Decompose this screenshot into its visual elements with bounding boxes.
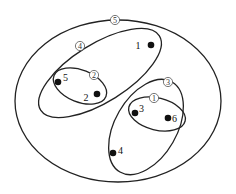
cluster-5-ellipse	[15, 20, 221, 182]
point-dot	[148, 42, 155, 49]
point-1: 1	[136, 40, 155, 51]
cluster-3-label: 3	[163, 77, 172, 86]
point-6: 6	[165, 113, 177, 124]
cluster-4-ellipse	[25, 11, 174, 134]
point-label: 4	[118, 145, 123, 156]
point-dot	[132, 110, 139, 117]
label-number: 4	[78, 42, 82, 51]
cluster-2-label: 2	[89, 70, 98, 79]
label-number: 5	[113, 16, 117, 25]
point-dot	[165, 115, 172, 122]
cluster-5-label: 5	[110, 15, 119, 24]
point-dot	[110, 150, 117, 157]
cluster-labels: 54231	[75, 15, 172, 102]
label-number: 2	[92, 71, 96, 80]
cluster-1-label: 1	[149, 93, 158, 102]
label-number: 3	[166, 78, 170, 87]
point-dot	[55, 79, 62, 86]
point-dot	[94, 91, 101, 98]
point-label: 2	[84, 92, 89, 103]
point-label: 6	[172, 113, 177, 124]
point-2: 2	[84, 91, 101, 103]
point-label: 1	[136, 40, 141, 51]
point-label: 5	[63, 72, 68, 83]
cluster-ellipses	[15, 11, 221, 187]
diagram-svg: 123456 54231	[0, 0, 236, 194]
point-label: 3	[139, 103, 144, 114]
cluster-2-ellipse	[48, 61, 112, 112]
point-5: 5	[55, 72, 68, 86]
label-number: 1	[152, 94, 156, 103]
cluster-4-label: 4	[75, 41, 84, 50]
point-3: 3	[132, 103, 144, 117]
clustering-diagram: 123456 54231	[0, 0, 236, 194]
point-4: 4	[110, 145, 123, 157]
